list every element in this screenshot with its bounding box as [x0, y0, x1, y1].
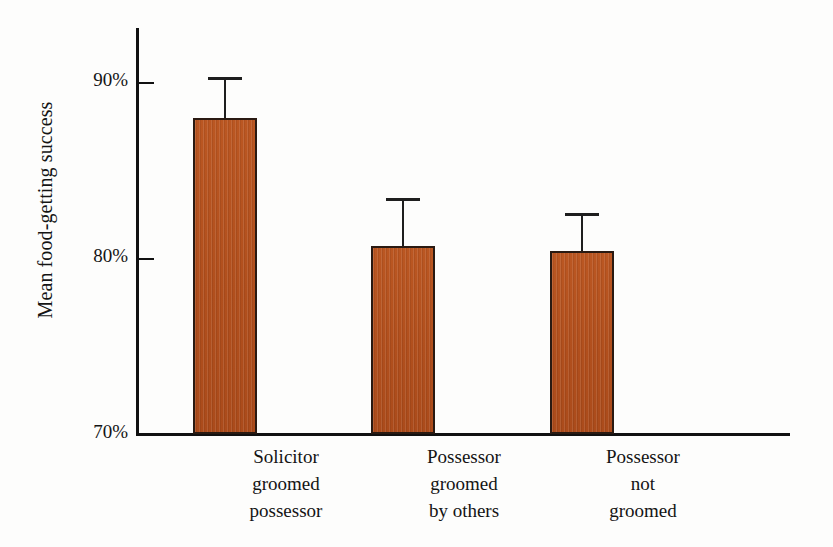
x-category-label-3-line3: groomed	[543, 498, 743, 525]
x-category-label-2-line2: groomed	[364, 471, 564, 498]
plot-area	[139, 28, 790, 434]
error-bar-cap-3	[565, 213, 599, 216]
x-category-label-3: Possessor not groomed	[543, 444, 743, 525]
x-category-label-3-line2: not	[543, 471, 743, 498]
error-bar-line-2	[402, 201, 404, 246]
x-category-label-1-line2: groomed	[186, 471, 386, 498]
x-category-label-1: Solicitor groomed possessor	[186, 444, 386, 525]
bar-3[interactable]	[550, 251, 614, 434]
error-bar-cap-2	[386, 198, 420, 201]
x-category-label-2-line1: Possessor	[364, 444, 564, 471]
x-category-label-2: Possessor groomed by others	[364, 444, 564, 525]
y-axis-title: Mean food-getting success	[28, 0, 62, 420]
error-bar-line-3	[581, 216, 583, 251]
error-bar-cap-1	[208, 77, 242, 80]
bar-2[interactable]	[371, 246, 435, 434]
y-tick-label-90-text: 90%	[93, 69, 128, 91]
bar-1[interactable]	[193, 118, 257, 434]
x-category-label-2-line3: by others	[364, 498, 564, 525]
y-tick-label-70-text: 70%	[93, 421, 128, 443]
x-category-label-1-line1: Solicitor	[186, 444, 386, 471]
x-category-label-1-line3: possessor	[186, 498, 386, 525]
error-bar-line-1	[224, 80, 226, 118]
y-tick-label-80-text: 80%	[93, 245, 128, 267]
chart-figure: Mean food-getting success 90% 80% 70%	[0, 0, 833, 547]
x-category-label-3-line1: Possessor	[543, 444, 743, 471]
